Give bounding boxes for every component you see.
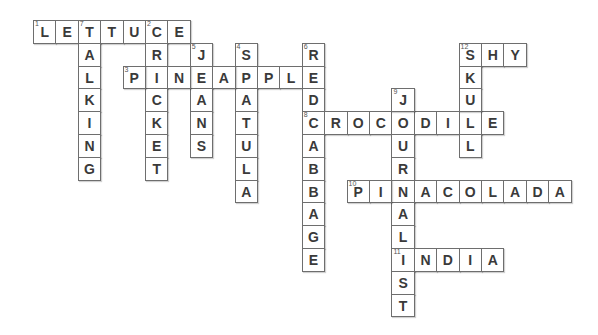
crossword-cell[interactable]: I [369, 180, 392, 204]
crossword-cell[interactable]: T [145, 157, 168, 181]
crossword-cell[interactable]: A [391, 202, 414, 226]
crossword-cell[interactable]: A [212, 66, 235, 90]
crossword-cell[interactable]: D [436, 248, 459, 272]
crossword-cell[interactable]: C [369, 111, 392, 135]
crossword-cell[interactable]: K [145, 111, 168, 135]
crossword-cell[interactable]: A [235, 180, 258, 204]
crossword-cell[interactable]: E [167, 20, 190, 44]
crossword-cell[interactable]: D [526, 180, 549, 204]
crossword-cell[interactable]: 4S [235, 43, 258, 67]
crossword-cell[interactable]: 2C [145, 20, 168, 44]
cell-letter: E [146, 138, 167, 155]
cell-letter: A [549, 184, 570, 201]
cell-letter: A [303, 138, 324, 155]
crossword-cell[interactable]: I [459, 248, 482, 272]
crossword-cell[interactable]: A [302, 134, 325, 158]
crossword-cell[interactable]: L [235, 157, 258, 181]
crossword-cell[interactable]: 12S [459, 43, 482, 67]
crossword-cell[interactable]: L [459, 111, 482, 135]
crossword-cell[interactable]: T [100, 20, 123, 44]
cell-letter: A [236, 92, 257, 109]
crossword-cell[interactable]: G [78, 157, 101, 181]
cell-letter: I [79, 115, 100, 132]
crossword-cell[interactable]: Y [503, 43, 526, 67]
crossword-cell[interactable]: E [481, 111, 504, 135]
crossword-cell[interactable]: N [167, 66, 190, 90]
crossword-cell[interactable]: E [302, 248, 325, 272]
crossword-cell[interactable]: B [302, 180, 325, 204]
crossword-cell[interactable]: A [190, 88, 213, 112]
crossword-cell[interactable]: D [414, 111, 437, 135]
crossword-cell[interactable]: A [503, 180, 526, 204]
cell-letter: A [504, 184, 525, 201]
crossword-cell[interactable]: T [235, 111, 258, 135]
crossword-cell[interactable]: L [459, 134, 482, 158]
crossword-cell[interactable]: N [414, 248, 437, 272]
cell-letter: E [191, 70, 212, 87]
crossword-cell[interactable]: L [279, 66, 302, 90]
cell-letter: T [146, 161, 167, 178]
crossword-cell[interactable]: E [55, 20, 78, 44]
crossword-cell[interactable]: I [436, 111, 459, 135]
crossword-cell[interactable]: A [302, 202, 325, 226]
crossword-cell[interactable]: U [235, 134, 258, 158]
crossword-cell[interactable]: L [481, 180, 504, 204]
cell-letter: I [437, 115, 458, 132]
crossword-cell[interactable]: U [123, 20, 146, 44]
crossword-cell[interactable]: A [481, 248, 504, 272]
cell-letter: A [213, 70, 234, 87]
crossword-cell[interactable]: 5J [190, 43, 213, 67]
crossword-cell[interactable]: D [302, 88, 325, 112]
crossword-cell[interactable]: U [459, 88, 482, 112]
crossword-cell[interactable]: N [391, 180, 414, 204]
cell-letter: S [460, 47, 481, 64]
crossword-cell[interactable]: C [145, 88, 168, 112]
crossword-cell[interactable]: E [145, 134, 168, 158]
crossword-cell[interactable]: K [459, 66, 482, 90]
crossword-cell[interactable]: N [190, 111, 213, 135]
crossword-cell[interactable]: I [78, 111, 101, 135]
crossword-cell[interactable]: O [347, 111, 370, 135]
crossword-cell[interactable]: R [324, 111, 347, 135]
crossword-cell[interactable]: N [78, 134, 101, 158]
crossword-cell[interactable]: E [302, 66, 325, 90]
crossword-cell[interactable]: 3P [123, 66, 146, 90]
crossword-cell[interactable]: B [302, 157, 325, 181]
crossword-cell[interactable]: G [302, 225, 325, 249]
cell-letter: L [392, 229, 413, 246]
crossword-cell[interactable]: R [145, 43, 168, 67]
crossword-cell[interactable]: I [145, 66, 168, 90]
crossword-cell[interactable]: A [548, 180, 571, 204]
crossword-cell[interactable]: S [391, 271, 414, 295]
cell-letter: I [392, 252, 413, 269]
crossword-cell[interactable]: C [436, 180, 459, 204]
crossword-cell[interactable]: O [459, 180, 482, 204]
crossword-cell[interactable]: S [190, 134, 213, 158]
crossword-cell[interactable]: L [391, 225, 414, 249]
crossword-cell[interactable]: 11I [391, 248, 414, 272]
crossword-cell[interactable]: H [481, 43, 504, 67]
crossword-cell[interactable]: A [235, 88, 258, 112]
crossword-cell[interactable]: 10P [347, 180, 370, 204]
cell-letter: C [303, 115, 324, 132]
crossword-cell[interactable]: 8C [302, 111, 325, 135]
crossword-cell[interactable]: P [257, 66, 280, 90]
crossword-cell[interactable]: T [391, 294, 414, 318]
crossword-cell[interactable]: 6R [302, 43, 325, 67]
crossword-cell[interactable]: L [78, 66, 101, 90]
crossword-cell[interactable]: A [414, 180, 437, 204]
cell-letter: E [303, 70, 324, 87]
crossword-cell[interactable]: 7T [78, 20, 101, 44]
crossword-cell[interactable]: R [391, 157, 414, 181]
crossword-cell[interactable]: U [391, 134, 414, 158]
crossword-cell[interactable]: A [78, 43, 101, 67]
cell-letter: P [236, 70, 257, 87]
crossword-cell[interactable]: 1L [33, 20, 56, 44]
crossword-cell[interactable]: E [190, 66, 213, 90]
cell-letter: Y [504, 47, 525, 64]
crossword-cell[interactable]: 9J [391, 88, 414, 112]
crossword-cell[interactable]: P [235, 66, 258, 90]
cell-letter: K [79, 92, 100, 109]
crossword-cell[interactable]: K [78, 88, 101, 112]
crossword-cell[interactable]: O [391, 111, 414, 135]
